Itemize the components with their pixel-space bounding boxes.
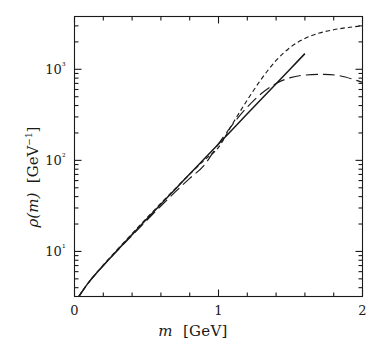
- y-axis-label-unit: [GeV: [24, 146, 42, 184]
- plot-border: [75, 17, 363, 297]
- curve-long-dash: [79, 74, 363, 296]
- plot-frame: [75, 17, 363, 297]
- curve-solid: [79, 54, 305, 297]
- axis-tick-labels: 01210¹10²10³: [45, 61, 366, 318]
- y-tick-label: 10¹: [45, 243, 65, 259]
- axis-ticks: [75, 17, 363, 297]
- y-axis-label-close: ]: [24, 127, 42, 133]
- curve-layer: [79, 26, 363, 297]
- x-tick-label: 2: [358, 303, 366, 318]
- y-axis-label-variable: ρ(m): [24, 193, 42, 228]
- density-of-states-chart: 01210¹10²10³: [0, 0, 386, 357]
- x-axis-label: m [GeV]: [0, 322, 386, 340]
- x-tick-label: 0: [70, 303, 78, 318]
- curve-short-dash: [79, 26, 363, 297]
- y-tick-label: 10³: [45, 61, 66, 77]
- data-curves: [79, 26, 363, 297]
- x-axis-label-variable: m: [158, 322, 173, 340]
- x-axis-label-unit: [GeV]: [183, 322, 228, 340]
- y-axis-label-exponent: −1: [24, 132, 34, 145]
- y-tick-label: 10²: [45, 152, 66, 168]
- x-tick-label: 1: [214, 303, 222, 318]
- y-axis-label: ρ(m) [GeV−1]: [24, 82, 42, 272]
